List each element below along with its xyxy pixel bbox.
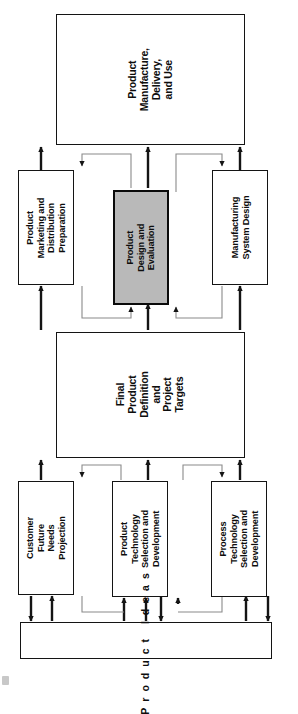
feedback-design-to-marketing — [82, 154, 131, 188]
node-product-ideas-label: Product Ideas — [140, 567, 152, 714]
feedback-proctech-to-prodtech-low — [178, 596, 222, 612]
node-manufacturing-system[interactable]: Manufacturing System Design — [212, 170, 268, 285]
node-product-design-label: Product Design and Evaluation — [125, 223, 157, 271]
node-process-technology-label: Process Technology Selection and Develop… — [218, 510, 260, 568]
page-corner-artifact — [2, 676, 9, 685]
feedback-customer-to-prodtech — [82, 596, 124, 612]
node-process-technology[interactable]: Process Technology Selection and Develop… — [211, 481, 267, 597]
node-product-ideas[interactable]: Product Ideas — [20, 622, 272, 659]
node-customer-needs-label: Customer Future Needs Projection — [25, 516, 67, 559]
node-product-marketing[interactable]: Product Marketing and Distribution Prepa… — [18, 170, 74, 285]
feedback-proctech-to-prodtech — [183, 465, 222, 480]
node-product-technology-label: Product Technology Selection and Develop… — [119, 510, 161, 568]
feedback-mfgsystem-to-design — [176, 286, 222, 318]
node-product-manufacture[interactable]: Product Manufacture, Delivery, and Use — [56, 14, 245, 145]
node-product-design[interactable]: Product Design and Evaluation — [113, 190, 169, 305]
node-final-product-definition[interactable]: Final Product Definition and Project Tar… — [56, 332, 245, 458]
node-product-marketing-label: Product Marketing and Distribution Prepa… — [25, 197, 67, 257]
node-manufacturing-system-label: Manufacturing System Design — [230, 195, 251, 259]
node-customer-needs[interactable]: Customer Future Needs Projection — [18, 481, 74, 595]
node-final-product-definition-label: Final Product Definition and Project Tar… — [115, 372, 186, 418]
feedback-prodtech-to-customer — [82, 465, 121, 480]
node-product-manufacture-label: Product Manufacture, Delivery, and Use — [127, 48, 174, 111]
